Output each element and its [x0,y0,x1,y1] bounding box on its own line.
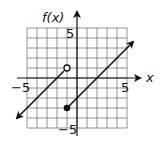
closed-endpoint [64,105,71,112]
piecewise-function-graph: f(x) x −5 5 5 −5 [0,0,162,146]
x-axis-label: x [145,70,154,85]
x-max-tick-label: 5 [121,80,129,95]
y-axis-label: f(x) [42,10,64,25]
y-max-tick-label: 5 [66,26,74,41]
open-endpoint [64,65,70,71]
y-min-tick-label: −5 [58,122,77,137]
x-min-tick-label: −5 [11,80,30,95]
